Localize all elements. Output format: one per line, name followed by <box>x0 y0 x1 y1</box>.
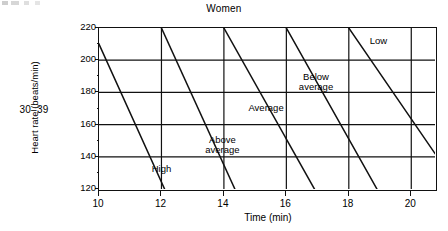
chart-title: Women <box>0 3 448 14</box>
x-tick-major <box>285 191 286 196</box>
y-tick-label: 160 <box>70 119 96 128</box>
x-tick-major <box>98 191 99 196</box>
x-axis-label: Time (min) <box>98 212 438 223</box>
y-axis-ticks: 120140160180200220 <box>66 27 96 191</box>
zone-boundary-line <box>286 28 377 189</box>
x-axis-ticks: 101214161820 <box>98 191 437 213</box>
plot-area: HighAbove averageAverageBelow averageLow <box>98 27 437 191</box>
x-tick-major <box>410 191 411 196</box>
x-tick-label: 18 <box>336 198 360 209</box>
y-tick-label: 200 <box>70 54 96 63</box>
zone-label: High <box>131 164 191 175</box>
x-tick-major <box>223 191 224 196</box>
y-tick-label: 120 <box>70 183 96 192</box>
x-tick-major <box>160 191 161 196</box>
x-tick-label: 14 <box>211 198 235 209</box>
y-tick-label: 140 <box>70 151 96 160</box>
chart-root: Women 30–39 Heart rate (beats/min) 12014… <box>0 0 448 231</box>
zone-label: Low <box>348 36 408 47</box>
x-tick-label: 20 <box>398 198 422 209</box>
zone-label: Above average <box>192 135 252 156</box>
zone-label: Average <box>236 103 296 114</box>
y-tick-label: 180 <box>70 86 96 95</box>
y-tick-label: 220 <box>70 22 96 31</box>
x-tick-label: 10 <box>86 198 110 209</box>
y-axis-label: Heart rate (beats/min) <box>29 43 40 173</box>
x-tick-label: 12 <box>148 198 172 209</box>
x-tick-major <box>348 191 349 196</box>
zone-label: Below average <box>286 72 346 93</box>
x-tick-label: 16 <box>273 198 297 209</box>
